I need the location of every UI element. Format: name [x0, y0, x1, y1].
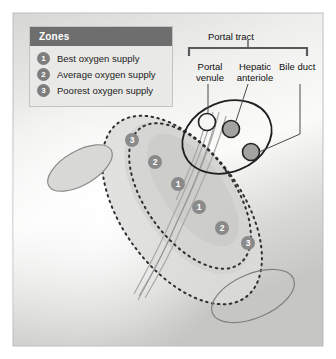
- zones-legend: Zones 1 Best oxygen supply 2 Average oxy…: [29, 26, 173, 107]
- portal-venule-label-line1: Portal: [190, 61, 230, 72]
- legend-item-label: Best oxygen supply: [57, 53, 139, 64]
- hepatic-arteriole-circle: [223, 121, 240, 138]
- bile-duct-label: Bile duct: [279, 61, 325, 72]
- zone-1-badge-icon: 1: [37, 52, 50, 65]
- portal-venule-label-line2: venule: [190, 72, 230, 83]
- hepatic-arteriole-label-line1: Hepatic: [232, 61, 278, 72]
- liver-acinus-diagram: Zones 1 Best oxygen supply 2 Average oxy…: [0, 0, 336, 359]
- zone-marker-2: 2: [148, 155, 162, 169]
- legend-item-label: Average oxygen supply: [57, 69, 156, 80]
- portal-venule-circle: [199, 114, 216, 131]
- legend-item-zone-1: 1 Best oxygen supply: [37, 52, 166, 65]
- zone-marker-1: 1: [171, 177, 185, 191]
- zone-3-badge-icon: 3: [37, 84, 50, 97]
- hepatic-arteriole-label-line2: anteriole: [232, 72, 278, 83]
- portal-tract-label: Portal tract: [208, 31, 254, 42]
- portal-venule-label: Portal venule: [190, 61, 230, 83]
- zone-marker-2: 2: [215, 221, 229, 235]
- hepatic-arteriole-label: Hepatic anteriole: [232, 61, 278, 83]
- legend-item-zone-3: 3 Poorest oxygen supply: [37, 84, 166, 97]
- legend-title: Zones: [30, 27, 172, 46]
- zone-marker-3: 3: [125, 133, 139, 147]
- zone-marker-1: 1: [192, 200, 206, 214]
- bile-duct-circle: [243, 144, 260, 161]
- zone-2-badge-icon: 2: [37, 68, 50, 81]
- zone-marker-3: 3: [241, 236, 255, 250]
- legend-item-zone-2: 2 Average oxygen supply: [37, 68, 166, 81]
- legend-item-label: Poorest oxygen supply: [57, 85, 153, 96]
- legend-item-list: 1 Best oxygen supply 2 Average oxygen su…: [30, 46, 172, 106]
